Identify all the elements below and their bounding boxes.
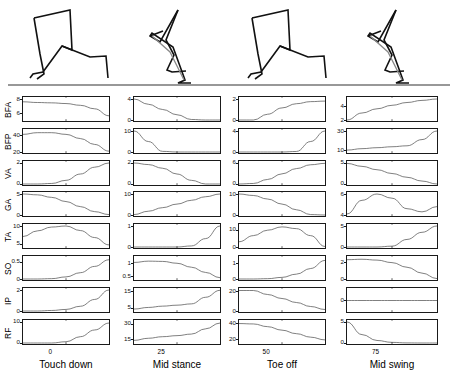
plot-va-toe-off: 06 bbox=[238, 160, 326, 188]
plot-so-touch-down: 00.5 bbox=[22, 255, 110, 283]
y-tick-mark bbox=[344, 226, 346, 227]
y-tick-mark bbox=[131, 291, 133, 292]
y-tick-label: 10 bbox=[124, 191, 131, 197]
plot-grid: BFA68040224BFP2040010041030VA02020605GA0… bbox=[0, 96, 458, 348]
curve-ta bbox=[22, 223, 110, 248]
row-label-va: VA bbox=[0, 160, 16, 188]
x-tick-label-mid-stance: 25 bbox=[149, 348, 173, 355]
stick-figure-mid-swing bbox=[368, 10, 409, 83]
y-tick-mark bbox=[344, 262, 346, 263]
y-tick-mark bbox=[20, 311, 22, 312]
y-tick-mark bbox=[236, 152, 238, 153]
plot-ga-toe-off: 010 bbox=[238, 191, 326, 219]
y-tick-mark bbox=[131, 131, 133, 132]
plot-so-toe-off: 01 bbox=[238, 255, 326, 283]
curve-bfa bbox=[346, 96, 438, 121]
y-tick-mark bbox=[131, 226, 133, 227]
plot-ip-mid-stance: 515 bbox=[133, 287, 221, 315]
y-tick-mark bbox=[236, 311, 238, 312]
curve-ga bbox=[133, 191, 221, 216]
y-tick-label: 15 bbox=[124, 336, 131, 342]
y-tick-mark bbox=[236, 184, 238, 185]
plot-va-mid-swing: 05 bbox=[346, 160, 438, 188]
plot-row-bfa: BFA68040224 bbox=[0, 96, 458, 124]
plot-bfa-toe-off: 02 bbox=[238, 96, 326, 124]
y-tick-mark bbox=[20, 99, 22, 100]
plot-ip-mid-swing: 0 bbox=[346, 287, 438, 315]
y-tick-label: 15 bbox=[124, 288, 131, 294]
y-tick-mark bbox=[20, 262, 22, 263]
curve-ta bbox=[346, 223, 438, 248]
curve-bfp bbox=[133, 128, 221, 153]
x-tick-label-touch-down: 0 bbox=[38, 348, 62, 355]
plot-ta-touch-down: 510 bbox=[22, 223, 110, 251]
y-tick-mark bbox=[131, 184, 133, 185]
curve-ip bbox=[22, 287, 110, 312]
curve-va bbox=[346, 160, 438, 185]
plot-va-touch-down: 02 bbox=[22, 160, 110, 188]
y-tick-label: 40 bbox=[13, 132, 20, 138]
y-tick-mark bbox=[131, 308, 133, 309]
y-tick-label: 20 bbox=[229, 336, 236, 342]
plot-ga-mid-swing: 46 bbox=[346, 191, 438, 219]
y-tick-mark bbox=[236, 230, 238, 231]
y-tick-mark bbox=[131, 324, 133, 325]
curve-va bbox=[238, 160, 326, 185]
y-tick-label: 10 bbox=[229, 226, 236, 232]
curve-bfp bbox=[22, 128, 110, 153]
y-tick-label: 20 bbox=[229, 288, 236, 294]
y-tick-mark bbox=[20, 343, 22, 344]
y-tick-mark bbox=[131, 276, 133, 277]
y-tick-mark bbox=[131, 163, 133, 164]
plot-ip-touch-down: 02 bbox=[22, 287, 110, 315]
y-tick-label: 20 bbox=[13, 149, 20, 155]
y-tick-mark bbox=[344, 279, 346, 280]
y-tick-mark bbox=[344, 163, 346, 164]
plot-row-va: VA02020605 bbox=[0, 160, 458, 188]
y-tick-mark bbox=[131, 339, 133, 340]
curve-ta bbox=[238, 223, 326, 248]
plot-bfp-toe-off: 04 bbox=[238, 128, 326, 156]
y-tick-label: 0.5 bbox=[122, 273, 131, 279]
plot-rf-mid-stance: 1530 bbox=[133, 319, 221, 347]
plot-row-ga: GA0501001046 bbox=[0, 191, 458, 219]
y-tick-mark bbox=[236, 263, 238, 264]
stick-figure-toe-off bbox=[248, 10, 326, 79]
plot-bfp-mid-swing: 1030 bbox=[346, 128, 438, 156]
y-tick-label: 10 bbox=[13, 318, 20, 324]
curve-so bbox=[133, 255, 221, 280]
plot-so-mid-swing: 02 bbox=[346, 255, 438, 283]
y-tick-mark bbox=[344, 247, 346, 248]
y-tick-label: 40 bbox=[229, 320, 236, 326]
curve-bfp bbox=[346, 128, 438, 153]
plot-row-so: SO00.50.510102 bbox=[0, 255, 458, 283]
y-tick-mark bbox=[344, 194, 346, 195]
phase-caption-toe-off: Toe off bbox=[232, 359, 332, 370]
curve-ga bbox=[238, 191, 326, 216]
y-tick-mark bbox=[20, 290, 22, 291]
plot-bfp-touch-down: 2040 bbox=[22, 128, 110, 156]
curve-ga bbox=[346, 191, 438, 216]
stick-figure-mid-stance bbox=[150, 10, 191, 83]
plot-ip-toe-off: 020 bbox=[238, 287, 326, 315]
curve-bfa bbox=[22, 96, 110, 121]
plot-row-ta: TA5100101005 bbox=[0, 223, 458, 251]
y-tick-label: 0.5 bbox=[11, 258, 20, 264]
x-tick-label-toe-off: 50 bbox=[254, 348, 278, 355]
y-tick-mark bbox=[236, 131, 238, 132]
plot-row-ip: IP025150200 bbox=[0, 287, 458, 315]
plot-bfa-mid-stance: 04 bbox=[133, 96, 221, 124]
x-tick-label-mid-swing: 75 bbox=[363, 348, 387, 355]
y-tick-mark bbox=[344, 106, 346, 107]
y-tick-label: 30 bbox=[124, 320, 131, 326]
y-tick-mark bbox=[20, 322, 22, 323]
y-tick-mark bbox=[20, 152, 22, 153]
stick-figure-touch-down bbox=[30, 10, 108, 79]
y-tick-label: 10 bbox=[229, 191, 236, 197]
plot-row-rf: RF0101530204005 bbox=[0, 319, 458, 347]
plot-row-bfp: BFP2040010041030 bbox=[0, 128, 458, 156]
curve-ip bbox=[133, 287, 221, 312]
y-tick-mark bbox=[131, 120, 133, 121]
y-tick-mark bbox=[20, 279, 22, 280]
row-label-ip: IP bbox=[0, 287, 16, 315]
